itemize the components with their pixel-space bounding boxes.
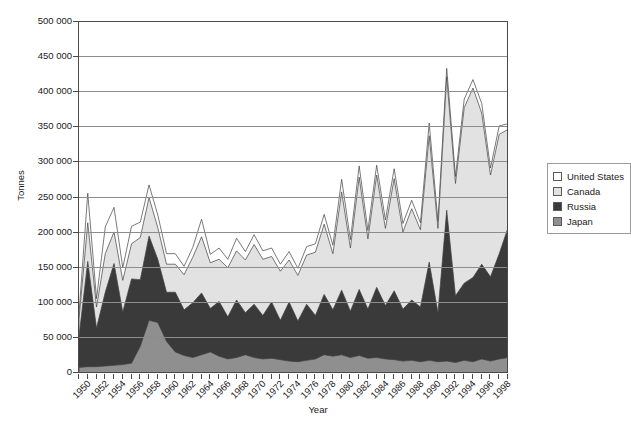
x-tick-mark xyxy=(271,374,272,379)
legend-item[interactable]: Canada xyxy=(553,184,624,198)
x-tick-mark xyxy=(341,374,342,379)
y-tick-label: 250 000 xyxy=(0,192,72,202)
x-tick-mark xyxy=(262,374,263,379)
x-tick-mark xyxy=(104,374,105,379)
x-tick-mark xyxy=(384,374,385,379)
y-tick-mark xyxy=(73,21,78,22)
x-tick-mark xyxy=(253,374,254,379)
x-tick-mark xyxy=(201,374,202,379)
legend-item[interactable]: Russia xyxy=(553,199,624,213)
x-tick-mark xyxy=(288,374,289,379)
x-tick-mark xyxy=(393,374,394,379)
x-tick-mark xyxy=(314,374,315,379)
plot-area xyxy=(78,21,508,373)
x-tick-mark xyxy=(78,374,79,379)
legend-item-label: Canada xyxy=(567,186,600,197)
x-tick-mark xyxy=(96,374,97,379)
x-tick-mark xyxy=(227,374,228,379)
y-tick-label: 150 000 xyxy=(0,262,72,272)
x-tick-mark xyxy=(419,374,420,379)
x-tick-mark xyxy=(481,374,482,379)
x-tick-mark xyxy=(446,374,447,379)
x-tick-mark xyxy=(139,374,140,379)
x-tick-mark xyxy=(463,374,464,379)
y-tick-label: 500 000 xyxy=(0,16,72,26)
chart-legend: United StatesCanadaRussiaJapan xyxy=(547,163,631,234)
gridline xyxy=(79,267,507,268)
y-tick-label: 50 000 xyxy=(0,332,72,342)
x-tick-mark xyxy=(157,374,158,379)
y-tick-label: 300 000 xyxy=(0,156,72,166)
gridline xyxy=(79,91,507,92)
legend-swatch-icon xyxy=(553,187,562,196)
x-tick-mark xyxy=(428,374,429,379)
x-tick-mark xyxy=(148,374,149,379)
x-tick-mark xyxy=(218,374,219,379)
y-tick-label: 200 000 xyxy=(0,227,72,237)
x-tick-mark xyxy=(472,374,473,379)
y-tick-mark xyxy=(73,197,78,198)
gridline xyxy=(79,56,507,57)
y-tick-label: 400 000 xyxy=(0,86,72,96)
gridline xyxy=(79,232,507,233)
x-tick-mark xyxy=(332,374,333,379)
legend-item[interactable]: Japan xyxy=(553,214,624,228)
y-tick-mark xyxy=(73,372,78,373)
y-tick-mark xyxy=(73,126,78,127)
gridline xyxy=(79,197,507,198)
x-tick-mark xyxy=(454,374,455,379)
legend-item[interactable]: United States xyxy=(553,169,624,183)
y-tick-label: 350 000 xyxy=(0,121,72,131)
y-tick-mark xyxy=(73,56,78,57)
x-tick-mark xyxy=(358,374,359,379)
y-tick-mark xyxy=(73,267,78,268)
legend-item-label: United States xyxy=(567,171,624,182)
legend-swatch-icon xyxy=(553,202,562,211)
x-tick-mark xyxy=(367,374,368,379)
x-tick-mark xyxy=(131,374,132,379)
x-tick-mark xyxy=(349,374,350,379)
x-tick-mark xyxy=(166,374,167,379)
legend-swatch-icon xyxy=(553,172,562,181)
x-tick-mark xyxy=(192,374,193,379)
x-tick-mark xyxy=(376,374,377,379)
x-tick-mark xyxy=(402,374,403,379)
y-tick-mark xyxy=(73,91,78,92)
x-tick-mark xyxy=(174,374,175,379)
legend-item-label: Russia xyxy=(567,201,596,212)
x-tick-mark xyxy=(244,374,245,379)
y-tick-mark xyxy=(73,161,78,162)
y-tick-mark xyxy=(73,302,78,303)
y-tick-label: 450 000 xyxy=(0,51,72,61)
y-tick-label: 0 xyxy=(0,367,72,377)
x-tick-mark xyxy=(411,374,412,379)
gridline xyxy=(79,21,507,22)
x-tick-mark xyxy=(87,374,88,379)
x-tick-mark xyxy=(306,374,307,379)
x-tick-mark xyxy=(498,374,499,379)
x-tick-mark xyxy=(209,374,210,379)
x-tick-mark xyxy=(507,374,508,379)
x-tick-mark xyxy=(183,374,184,379)
gridline xyxy=(79,337,507,338)
x-tick-mark xyxy=(113,374,114,379)
x-tick-mark xyxy=(236,374,237,379)
y-tick-label: 100 000 xyxy=(0,297,72,307)
y-tick-mark xyxy=(73,232,78,233)
gridline xyxy=(79,161,507,162)
x-tick-mark xyxy=(122,374,123,379)
y-tick-mark xyxy=(73,337,78,338)
legend-item-label: Japan xyxy=(567,216,593,227)
stacked-area-series xyxy=(79,22,508,373)
x-tick-mark xyxy=(323,374,324,379)
x-tick-mark xyxy=(489,374,490,379)
x-tick-mark xyxy=(279,374,280,379)
x-tick-mark xyxy=(297,374,298,379)
gridline xyxy=(79,126,507,127)
gridline xyxy=(79,302,507,303)
legend-swatch-icon xyxy=(553,217,562,226)
x-tick-mark xyxy=(437,374,438,379)
